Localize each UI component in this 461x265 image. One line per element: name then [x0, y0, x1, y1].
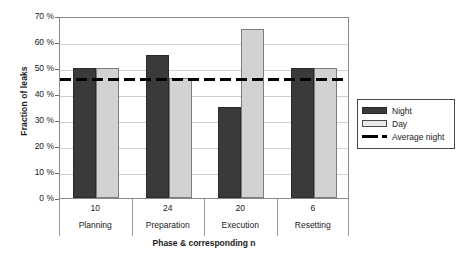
x-axis-category-resetting: 6Resetting — [277, 199, 350, 236]
y-axis-tick-label: 50 % — [14, 64, 54, 73]
x-axis-category-band: 10Planning24Preparation20Execution6Reset… — [59, 199, 349, 236]
x-axis-title: Phase & corresponding n — [59, 238, 349, 248]
bar-night-planning — [73, 68, 96, 198]
legend-label-night: Night — [392, 106, 412, 116]
legend-label-average-night: Average night — [392, 132, 444, 142]
legend-item-average-night[interactable]: Average night — [362, 130, 450, 143]
legend-swatch-day-icon — [362, 120, 387, 127]
gridline — [60, 44, 348, 45]
y-axis-tick-label: 60 % — [14, 38, 54, 47]
legend-label-day: Day — [392, 119, 407, 129]
y-axis-tick-label: 30 % — [14, 116, 54, 125]
x-axis-category-preparation: 24Preparation — [132, 199, 205, 236]
x-axis-category-label: Planning — [59, 220, 132, 230]
bar-day-planning — [96, 68, 119, 198]
bar-night-preparation — [146, 55, 169, 198]
x-axis-category-planning: 10Planning — [59, 199, 132, 236]
x-axis-category-n: 6 — [277, 203, 350, 213]
x-axis-category-n: 10 — [59, 203, 132, 213]
y-axis-tick-labels: 0 %10 %20 %30 %40 %50 %60 %70 % — [14, 0, 54, 265]
x-axis-category-label: Execution — [204, 220, 277, 230]
legend-item-night[interactable]: Night — [362, 104, 450, 117]
plot-area — [59, 17, 349, 199]
x-axis-category-n: 20 — [204, 203, 277, 213]
x-axis-category-execution: 20Execution — [204, 199, 277, 236]
legend-swatch-average-line-icon — [362, 133, 387, 140]
legend-item-day[interactable]: Day — [362, 117, 450, 130]
bar-day-preparation — [169, 78, 192, 198]
y-axis-tick-label: 10 % — [14, 168, 54, 177]
y-axis-tick-label: 40 % — [14, 90, 54, 99]
y-axis-tick-label: 0 % — [14, 194, 54, 203]
bar-day-execution — [241, 29, 264, 198]
average-night-reference-line — [60, 78, 348, 81]
y-axis-tick-label: 20 % — [14, 142, 54, 151]
x-axis-category-label: Resetting — [277, 220, 350, 230]
x-axis-category-label: Preparation — [132, 220, 205, 230]
y-axis-tick-label: 70 % — [14, 12, 54, 21]
bar-chart: Fraction of leaks 0 %10 %20 %30 %40 %50 … — [0, 0, 461, 265]
chart-legend: Night Day Average night — [357, 99, 455, 149]
bar-day-resetting — [314, 68, 337, 198]
bar-night-resetting — [291, 68, 314, 198]
legend-swatch-night-icon — [362, 107, 387, 114]
bar-night-execution — [218, 107, 241, 198]
x-axis-category-n: 24 — [132, 203, 205, 213]
